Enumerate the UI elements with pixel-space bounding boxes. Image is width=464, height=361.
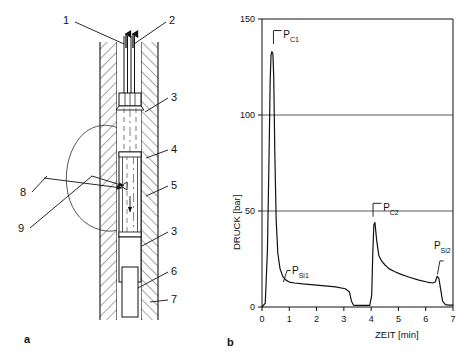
x-tick-label-3: 3 <box>341 314 346 324</box>
y-tick-label-100: 100 <box>240 110 255 120</box>
callout-1-label: 1 <box>63 14 69 26</box>
callout-1: 1 <box>63 14 124 44</box>
panel-b-letter: b <box>227 336 234 348</box>
x-axis-title: ZEIT [min] <box>375 329 419 340</box>
panel-a-diagram: 1 2 3 4 5 3 6 7 <box>0 0 232 361</box>
x-tick-label-4: 4 <box>369 314 374 324</box>
callout-4-label: 4 <box>171 143 177 155</box>
callout-2-label: 2 <box>169 14 175 26</box>
callout-6-label: 6 <box>171 265 177 277</box>
x-tick-label-6: 6 <box>423 314 428 324</box>
y-tick-label-150: 150 <box>240 14 255 24</box>
annotation-label-P_C1: PC1 <box>283 29 299 43</box>
panel-a-letter: a <box>24 333 30 345</box>
bottom-shoe <box>122 267 138 317</box>
callout-9-label: 9 <box>18 222 24 234</box>
data-curve <box>262 52 453 307</box>
callout-7-label: 7 <box>171 293 177 305</box>
annotation-label-P_C2: PC2 <box>383 202 399 216</box>
callout-8-label: 8 <box>20 186 26 198</box>
annotation-leader-P_C2 <box>373 203 381 216</box>
panel-b-chart: DRUCK [bar] ZEIT [min] 05010015001234567… <box>225 0 464 361</box>
plot-area: 05010015001234567PC1PSi1PC2PSi2 <box>240 14 456 324</box>
pressure-time-chart-svg: DRUCK [bar] ZEIT [min] 05010015001234567… <box>225 0 464 361</box>
x-tick-label-2: 2 <box>314 314 319 324</box>
y-axis-title: DRUCK [bar] <box>231 195 242 250</box>
y-tick-label-50: 50 <box>245 206 255 216</box>
borehole-schematic-svg: 1 2 3 4 5 3 6 7 <box>0 0 232 361</box>
tool-head-coupling <box>116 93 144 110</box>
x-tick-label-1: 1 <box>287 314 292 324</box>
x-tick-label-5: 5 <box>396 314 401 324</box>
straddle-packer-body <box>119 152 141 237</box>
y-tick-label-0: 0 <box>250 302 255 312</box>
x-tick-label-7: 7 <box>450 314 455 324</box>
callout-2: 2 <box>134 14 175 44</box>
annotation-label-P_Si2: PSi2 <box>434 240 451 254</box>
annotation-leader-P_C1 <box>273 31 281 44</box>
callout-5-label: 5 <box>171 179 177 191</box>
callout-3-lower-label: 3 <box>171 225 177 237</box>
x-tick-label-0: 0 <box>259 314 264 324</box>
callout-3-upper-label: 3 <box>171 91 177 103</box>
annotation-label-P_Si1: PSi1 <box>292 265 309 279</box>
annotation-leader-P_Si2 <box>437 261 443 274</box>
